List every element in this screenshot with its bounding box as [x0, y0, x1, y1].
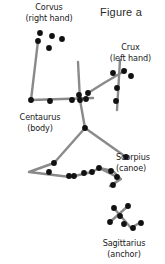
star-scorpius-1 — [51, 160, 57, 166]
label-corvus-role: (right hand) — [12, 13, 86, 24]
star-corvus-3 — [46, 45, 52, 51]
star-crux-0 — [110, 70, 116, 76]
star-scorpius-3 — [66, 173, 72, 179]
star-crux-1 — [121, 68, 127, 74]
label-corvus-name: Corvus — [12, 2, 86, 13]
star-chart-figure: Corvus (right hand) Crux (left hand) Cen… — [0, 0, 165, 264]
star-centaurus-2 — [69, 97, 75, 103]
star-corvus-2 — [59, 36, 65, 42]
star-centaurus-4 — [77, 97, 83, 103]
star-sagittarius-2 — [117, 213, 123, 219]
star-centaurus-0 — [28, 97, 34, 103]
label-scorpius-role: (canoe) — [116, 163, 164, 174]
label-crux: Crux (left hand) — [98, 42, 163, 63]
constellation-line-corvus — [31, 41, 38, 100]
figure-caption: Figure a — [100, 6, 142, 18]
star-sagittarius-4 — [121, 221, 127, 227]
label-crux-role: (left hand) — [98, 53, 163, 64]
star-crux-3 — [114, 85, 120, 91]
label-scorpius-name: Scorpius — [116, 152, 164, 163]
star-scorpius-9 — [114, 174, 120, 180]
label-crux-name: Crux — [98, 42, 163, 53]
star-corvus-1 — [49, 33, 55, 39]
label-sagittarius: Sagittarius (anchor) — [84, 238, 164, 259]
label-corvus: Corvus (right hand) — [12, 2, 86, 23]
star-centaurus-1 — [47, 98, 53, 104]
label-scorpius: Scorpius (canoe) — [116, 152, 164, 173]
star-centaurus-6 — [85, 90, 91, 96]
star-scorpius-10 — [110, 182, 116, 188]
star-scorpius-0 — [82, 125, 88, 131]
label-centaurus-role: (body) — [4, 123, 76, 134]
label-sagittarius-role: (anchor) — [84, 249, 164, 260]
star-centaurus-3 — [76, 92, 82, 98]
star-crux-2 — [128, 73, 134, 79]
star-crux-4 — [113, 98, 119, 104]
star-scorpius-5 — [81, 170, 87, 176]
star-sagittarius-3 — [107, 219, 113, 225]
star-scorpius-2 — [46, 169, 52, 175]
star-scorpius-8 — [108, 168, 114, 174]
star-corvus-0 — [37, 30, 43, 36]
star-corvus-4 — [35, 38, 41, 44]
star-scorpius-7 — [96, 165, 102, 171]
constellation-line-crux — [88, 70, 126, 93]
star-sagittarius-0 — [111, 205, 117, 211]
constellation-line-sagittarius — [113, 207, 141, 228]
label-centaurus: Centaurus (body) — [4, 112, 76, 133]
label-sagittarius-name: Sagittarius — [84, 238, 164, 249]
star-scorpius-6 — [89, 169, 95, 175]
star-sagittarius-1 — [125, 203, 131, 209]
star-centaurus-5 — [83, 96, 89, 102]
star-sagittarius-6 — [138, 220, 144, 226]
label-centaurus-name: Centaurus — [4, 112, 76, 123]
star-sagittarius-5 — [130, 225, 136, 231]
star-scorpius-4 — [71, 173, 77, 179]
